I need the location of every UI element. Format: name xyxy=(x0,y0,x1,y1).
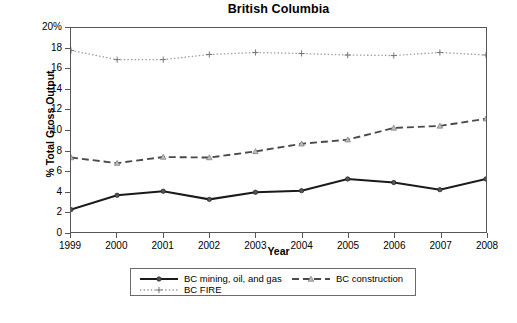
x-tick-mark xyxy=(302,233,303,238)
diamond-marker xyxy=(207,197,211,201)
plot-lines xyxy=(71,28,486,232)
y-tick-label: 6 xyxy=(22,165,62,176)
x-tick-mark xyxy=(487,233,488,238)
series-line xyxy=(71,119,486,163)
chart-figure: British Columbia % Total Gross Output 02… xyxy=(0,0,517,323)
legend-item[interactable]: BC construction xyxy=(291,272,403,285)
legend-label: BC construction xyxy=(336,273,403,285)
x-tick-mark xyxy=(394,233,395,238)
plus-marker xyxy=(160,57,166,63)
x-tick-mark xyxy=(255,233,256,238)
x-tick-mark xyxy=(163,233,164,238)
legend-label: BC FIRE xyxy=(184,284,221,296)
y-tick-label: 14 xyxy=(22,83,62,94)
y-tick-label: 20% xyxy=(22,21,62,32)
plus-marker xyxy=(437,49,443,55)
chart-title: British Columbia xyxy=(70,2,487,16)
plus-marker xyxy=(391,52,397,58)
plus-marker xyxy=(483,52,486,58)
plus-marker xyxy=(252,49,258,55)
x-axis-title: Year xyxy=(70,245,487,257)
diamond-marker xyxy=(161,189,165,193)
legend-item[interactable]: BC FIRE xyxy=(139,283,221,296)
legend-line-icon xyxy=(291,273,331,285)
y-tick-label: 10 xyxy=(22,124,62,135)
series-line xyxy=(71,50,486,59)
series-2 xyxy=(71,47,486,62)
plus-marker xyxy=(206,51,212,57)
x-tick-mark xyxy=(70,233,71,238)
y-tick-label: 2 xyxy=(22,206,62,217)
x-tick-mark xyxy=(348,233,349,238)
legend-swatch-icon xyxy=(291,273,331,285)
plus-marker xyxy=(114,57,120,63)
y-tick-label: 8 xyxy=(22,145,62,156)
chart-legend: BC mining, oil, and gasBC constructionBC… xyxy=(130,268,416,296)
diamond-marker xyxy=(345,177,349,181)
y-tick-label: 12 xyxy=(22,103,62,114)
legend-line-icon xyxy=(139,284,179,296)
legend-swatch-icon xyxy=(139,284,179,296)
y-tick-label: 4 xyxy=(22,186,62,197)
series-0 xyxy=(71,177,486,212)
x-tick-mark xyxy=(209,233,210,238)
x-tick-mark xyxy=(441,233,442,238)
diamond-marker xyxy=(253,190,257,194)
plus-marker xyxy=(156,286,162,292)
diamond-marker xyxy=(71,207,73,211)
y-tick-label: 18 xyxy=(22,42,62,53)
y-tick-label: 0 xyxy=(22,227,62,238)
diamond-marker xyxy=(157,276,161,280)
diamond-marker xyxy=(392,180,396,184)
diamond-marker xyxy=(484,177,486,181)
series-line xyxy=(71,179,486,210)
series-1 xyxy=(71,116,486,165)
x-tick-mark xyxy=(116,233,117,238)
plus-marker xyxy=(71,47,74,53)
diamond-marker xyxy=(299,189,303,193)
y-tick-label: 16 xyxy=(22,62,62,73)
plus-marker xyxy=(298,50,304,56)
diamond-marker xyxy=(438,187,442,191)
plot-area xyxy=(70,27,487,233)
plus-marker xyxy=(345,52,351,58)
diamond-marker xyxy=(115,193,119,197)
